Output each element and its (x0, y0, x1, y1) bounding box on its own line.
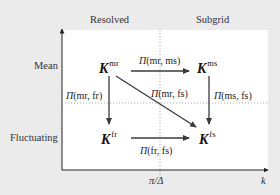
transfer-label-mr-fr: Π(mr, fr) (66, 91, 102, 101)
row-label-mean: Mean (34, 61, 58, 72)
column-header-subgrid: Subgrid (196, 15, 229, 26)
node-superscript: fs (209, 129, 215, 139)
node-symbol: K (197, 61, 206, 76)
node-k-ms: Kms (197, 60, 217, 76)
row-label-fluctuating: Fluctuating (10, 133, 58, 144)
transfer-label-mr-fs: Π(mr, fs) (151, 89, 188, 99)
transfer-args: (mr, ms) (146, 55, 180, 66)
node-k-fr: Kfr (101, 131, 117, 147)
transfer-args: (mr, fr) (73, 90, 102, 101)
transfer-args: (fr, fs) (147, 145, 172, 156)
node-superscript: fr (111, 129, 117, 139)
node-symbol: K (99, 61, 108, 76)
column-header-resolved: Resolved (90, 15, 129, 26)
node-superscript: mr (109, 58, 118, 68)
axis-marker-cutoff: π/Δ (149, 176, 163, 187)
node-symbol: K (101, 132, 110, 147)
node-k-mr: Kmr (99, 60, 119, 76)
transfer-label-mr-ms: Π(mr, ms) (139, 56, 180, 66)
transfer-args: (mr, fs) (158, 88, 188, 99)
node-superscript: ms (207, 58, 217, 68)
transfer-label-fr-fs: Π(fr, fs) (140, 146, 172, 156)
transfer-label-ms-fs: Π(ms, fs) (214, 91, 252, 101)
node-k-fs: Kfs (199, 131, 215, 147)
x-axis-label: k (261, 176, 266, 187)
arrow-mr-fs (116, 76, 196, 127)
transfer-args: (ms, fs) (221, 90, 252, 101)
node-symbol: K (199, 132, 208, 147)
